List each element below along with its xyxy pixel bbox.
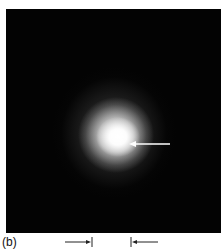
width-markers	[0, 232, 223, 250]
figure-panel	[6, 9, 221, 233]
pointer-arrow-icon	[6, 9, 221, 233]
right-arrow-icon	[131, 237, 158, 247]
left-arrow-icon	[65, 237, 92, 247]
